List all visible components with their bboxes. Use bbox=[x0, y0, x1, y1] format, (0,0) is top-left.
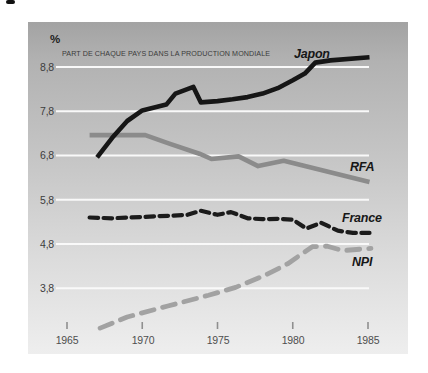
series-line-npi bbox=[100, 246, 371, 328]
series-line-rfa bbox=[90, 135, 370, 182]
y-tick-label: 6,8 bbox=[18, 149, 54, 161]
series-line-japon bbox=[97, 57, 369, 157]
series-line-france bbox=[90, 211, 370, 233]
series-label-npi: NPI bbox=[352, 255, 372, 269]
series-label-japon: Japon bbox=[294, 47, 330, 61]
x-tick-label: 1985 bbox=[346, 334, 390, 346]
chart-title: PART DE CHAQUE PAYS DANS LA PRODUCTION M… bbox=[62, 49, 270, 58]
y-tick-label: 3,8 bbox=[18, 282, 54, 294]
y-tick-label: 8,8 bbox=[18, 61, 54, 73]
series-label-rfa: RFA bbox=[350, 160, 374, 174]
x-tick-label: 1980 bbox=[271, 334, 315, 346]
x-tick-label: 1965 bbox=[45, 334, 89, 346]
y-tick-label: 7,8 bbox=[18, 105, 54, 117]
x-tick-label: 1975 bbox=[196, 334, 240, 346]
y-tick-label: 5,8 bbox=[18, 194, 54, 206]
series-label-france: France bbox=[342, 211, 382, 225]
x-tick-label: 1970 bbox=[121, 334, 165, 346]
y-axis-unit-label: % bbox=[50, 33, 60, 45]
figure: % PART DE CHAQUE PAYS DANS LA PRODUCTION… bbox=[0, 0, 428, 373]
y-tick-label: 4,8 bbox=[18, 238, 54, 250]
